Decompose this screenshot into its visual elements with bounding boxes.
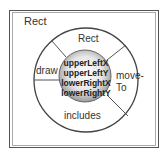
method-label-includes: includes <box>64 110 101 121</box>
data-field: upperLeftX <box>58 58 114 68</box>
data-fields: upperLeftX upperLeftY lowerRightX lowerR… <box>58 58 114 98</box>
data-field: upperLeftY <box>58 68 114 78</box>
data-field: lowerRightX <box>58 78 114 88</box>
method-label-draw: draw <box>36 65 58 76</box>
method-label-moveto-1: move- <box>116 70 144 81</box>
method-label-moveto-2: To <box>116 82 127 93</box>
method-label-rect: Rect <box>78 33 99 44</box>
data-field: lowerRightY <box>58 88 114 98</box>
